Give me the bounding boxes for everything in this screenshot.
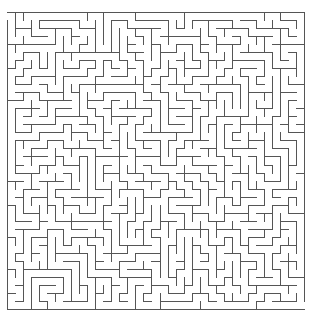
maze-grid bbox=[0, 0, 310, 317]
